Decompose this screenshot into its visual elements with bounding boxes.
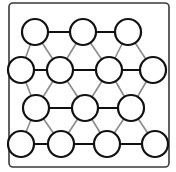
lattice-node [142,131,168,157]
lattice-node [72,95,98,121]
lattice-diagram [0,0,176,172]
lattice-node [8,131,34,157]
lattice-node [70,19,96,45]
lattice-node [94,131,120,157]
lattice-node [118,95,144,121]
lattice-node [22,19,48,45]
lattice-nodes [8,19,168,157]
lattice-node [140,57,166,83]
diagonal-edges [21,32,155,144]
lattice-node [115,19,141,45]
lattice-node [96,57,122,83]
lattice-node [47,57,73,83]
horizontal-edges [21,32,155,144]
lattice-node [8,57,34,83]
lattice-node [23,95,49,121]
lattice-node [48,131,74,157]
